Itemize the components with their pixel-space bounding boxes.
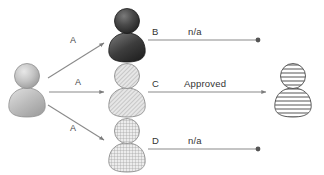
edge-label-b-to-target: n/a: [188, 27, 202, 37]
actor-d-glyph: [109, 119, 145, 173]
edge-label-source-to-c: A: [75, 78, 81, 87]
actor-c-glyph: [109, 64, 145, 118]
edge-label-c-to-target: Approved: [184, 79, 226, 89]
diagram-graphics: [0, 0, 324, 175]
actor-b-label: B: [152, 27, 159, 37]
actor-d-label: D: [152, 136, 159, 146]
approver-actor-glyph: [275, 64, 311, 118]
edge-b-to-target-line: [148, 38, 260, 43]
edge-source-to-b-line: [48, 43, 104, 78]
edge-label-source-to-d: A: [70, 124, 76, 133]
edge-source-to-d-line: [48, 105, 104, 140]
requester-actor-glyph: [9, 64, 45, 118]
edge-label-d-to-target: n/a: [188, 136, 202, 146]
diagram-canvas: A A A B n/a C Approved D n/a: [0, 0, 324, 175]
actor-b-glyph: [109, 9, 145, 63]
actor-c-label: C: [152, 79, 159, 89]
edge-label-source-to-b: A: [70, 36, 76, 45]
edge-d-to-target-line: [148, 147, 260, 152]
